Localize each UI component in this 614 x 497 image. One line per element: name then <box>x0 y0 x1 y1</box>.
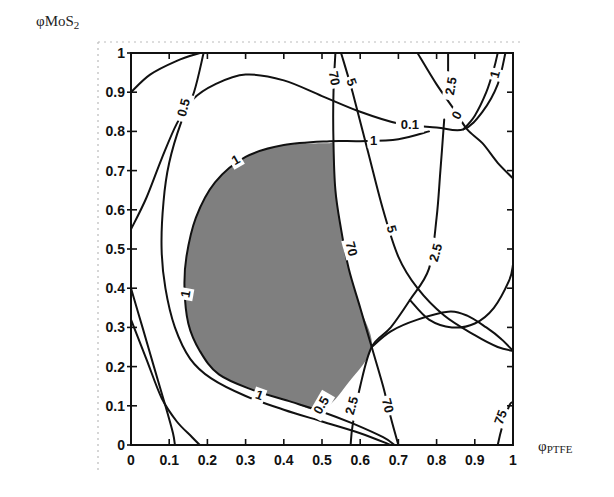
x-tick-label: 0.2 <box>198 452 218 468</box>
y-tick-label: 0.5 <box>106 241 126 257</box>
contour-label: 2.5 <box>442 76 460 96</box>
x-tick-label: 0.9 <box>465 452 485 468</box>
contour-chart: 0.57052.510.10117052.5110.52.57075 00.10… <box>0 0 614 497</box>
contour-label: 0.1 <box>401 117 419 132</box>
y-tick-label: 0.6 <box>106 202 126 218</box>
x-tick-label: 0.8 <box>427 452 447 468</box>
y-axis-title-subscript: 2 <box>74 19 80 31</box>
x-tick-label: 0.5 <box>312 452 332 468</box>
contour-label: 70 <box>326 70 343 87</box>
x-tick-label: 1 <box>509 452 517 468</box>
y-tick-label: 0.8 <box>106 123 126 139</box>
y-axis-title: φMoS2 <box>36 13 79 31</box>
y-axis-title-main: φMoS <box>36 13 74 29</box>
x-tick-label: 0.4 <box>274 452 294 468</box>
x-tick-label: 0.1 <box>159 452 179 468</box>
y-tick-label: 0.1 <box>106 398 126 414</box>
x-axis-title-main: φ <box>538 438 547 454</box>
y-tick-label: 0.7 <box>106 163 126 179</box>
y-tick-label: 0.9 <box>106 84 126 100</box>
contour-label-group: 0.1 <box>396 117 424 133</box>
x-tick-label: 0.7 <box>389 452 409 468</box>
x-axis-title-subscript: PTFE <box>547 443 573 455</box>
contour-label-group: 1 <box>368 133 380 149</box>
x-tick-label: 0.3 <box>236 452 256 468</box>
y-tick-label: 0 <box>117 437 125 453</box>
y-tick-label: 1 <box>117 45 125 61</box>
y-tick-label: 0.2 <box>106 359 126 375</box>
y-tick-label: 0.4 <box>106 280 126 296</box>
y-tick-label: 0.3 <box>106 319 126 335</box>
contour-label: 1 <box>370 133 377 148</box>
x-tick-label: 0 <box>127 452 135 468</box>
x-tick-label: 0.6 <box>350 452 370 468</box>
